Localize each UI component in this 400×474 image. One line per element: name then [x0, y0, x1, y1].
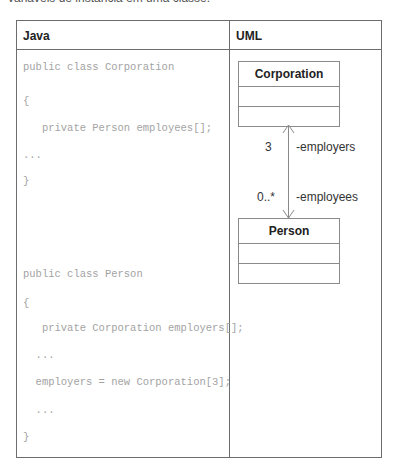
uml-class-name: Person [239, 219, 339, 244]
caption-text: variáveis de instância em uma classe. [8, 0, 210, 5]
multiplicity-person: 0..* [257, 190, 275, 204]
comparison-table: Java UML public class Corporation { priv… [16, 20, 382, 458]
uml-attributes-compartment [239, 244, 339, 264]
uml-class-person: Person [238, 218, 340, 284]
multiplicity-corporation: 3 [265, 140, 272, 154]
role-employers: -employers [296, 140, 355, 154]
uml-operations-compartment [239, 264, 339, 283]
role-employees: -employees [296, 190, 358, 204]
